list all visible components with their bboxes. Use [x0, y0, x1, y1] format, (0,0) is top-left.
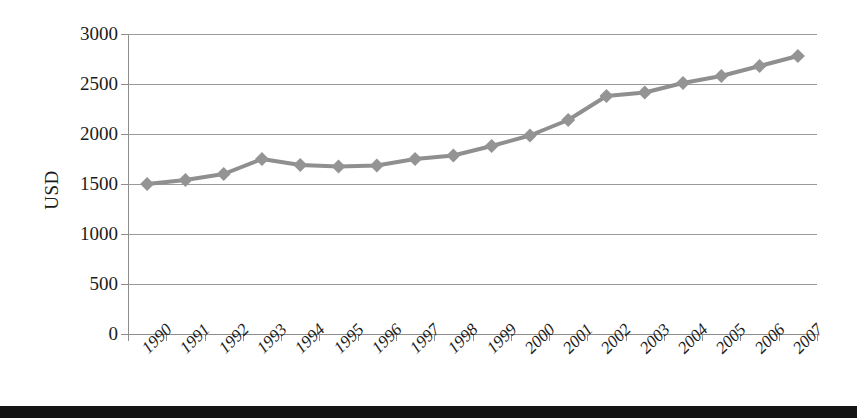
- data-point-marker: [523, 129, 537, 143]
- data-point-marker: [561, 113, 575, 127]
- y-axis-tick: [121, 84, 128, 85]
- y-axis-tick-label: 2500: [46, 74, 118, 93]
- x-axis-tick-label: 2001: [559, 320, 597, 358]
- y-axis-tick: [121, 284, 128, 285]
- x-axis-tick-label: 1998: [444, 320, 482, 358]
- x-axis-tick-label: 1999: [483, 320, 521, 358]
- gridline: [128, 284, 817, 285]
- data-point-marker: [791, 49, 805, 63]
- y-axis-tick-label: 0: [46, 324, 118, 343]
- data-point-marker: [638, 86, 652, 100]
- data-point-marker: [255, 152, 269, 166]
- data-point-marker: [485, 139, 499, 153]
- data-point-marker: [714, 69, 728, 83]
- x-axis-tick-label: 2004: [674, 320, 712, 358]
- chart-figure: 050010001500200025003000 USD 19901991199…: [0, 0, 857, 418]
- data-point-marker: [370, 159, 384, 173]
- x-axis-tick-label: 1995: [330, 320, 368, 358]
- y-axis-tick-label: 1000: [46, 224, 118, 243]
- gridline: [128, 84, 817, 85]
- y-axis-tick: [121, 184, 128, 185]
- x-axis-tick-label: 2007: [789, 320, 827, 358]
- gridline: [128, 184, 817, 185]
- x-axis-tick-label: 2002: [597, 320, 635, 358]
- x-axis-tick-label: 1993: [253, 320, 291, 358]
- x-axis-tick-label: 2005: [712, 320, 750, 358]
- y-axis-tick: [121, 234, 128, 235]
- y-axis-tick-label: 3000: [46, 24, 118, 43]
- y-axis-tick: [121, 134, 128, 135]
- data-point-marker: [293, 158, 307, 172]
- data-point-marker: [332, 160, 346, 174]
- x-axis-tick-label: 1991: [176, 320, 214, 358]
- y-axis-title: USD: [22, 160, 82, 220]
- data-point-marker: [408, 152, 422, 166]
- data-point-marker: [446, 149, 460, 163]
- gridline: [128, 134, 817, 135]
- x-axis-tick-label: 2000: [521, 320, 559, 358]
- x-axis-tick-label: 1994: [291, 320, 329, 358]
- data-point-marker: [753, 59, 767, 73]
- y-axis-tick: [121, 334, 128, 335]
- x-axis-tick: [128, 335, 129, 341]
- page-edge-bar: [0, 406, 857, 418]
- x-axis-tick-label: 2003: [636, 320, 674, 358]
- data-point-marker: [676, 76, 690, 90]
- x-axis-tick-label: 1992: [215, 320, 253, 358]
- data-point-marker: [217, 167, 231, 181]
- gridline: [128, 34, 817, 35]
- x-axis-tick-label: 2006: [751, 320, 789, 358]
- x-axis-tick-label: 1997: [406, 320, 444, 358]
- x-axis-tick-label: 1996: [368, 320, 406, 358]
- y-axis-tick-label: 2000: [46, 124, 118, 143]
- y-axis-tick-label: 500: [46, 274, 118, 293]
- x-axis-tick-label: 1990: [138, 320, 176, 358]
- data-point-marker: [599, 89, 613, 103]
- y-axis-tick: [121, 34, 128, 35]
- gridline: [128, 234, 817, 235]
